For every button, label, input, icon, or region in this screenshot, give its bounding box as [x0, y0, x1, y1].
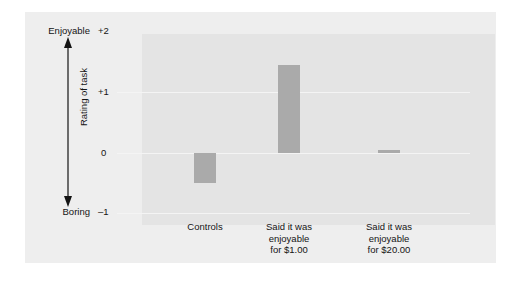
ytick-label-plus-1: +1: [98, 87, 109, 97]
category-label-20-dollar: Said it was enjoyable for $20.00: [349, 221, 429, 256]
plot-area: [142, 34, 495, 225]
gridline-zero: [117, 153, 470, 154]
ytick-label-minus-1: –1: [98, 207, 109, 217]
bar-said-enjoyable-1-dollar: [278, 65, 300, 153]
gridline-minus-1: [117, 213, 470, 214]
bar-controls: [194, 153, 216, 183]
axis-high-label: Enjoyable: [0, 26, 90, 36]
bar-said-enjoyable-20-dollar: [378, 150, 400, 153]
axis-title: Rating of task: [77, 57, 91, 137]
ytick-label-zero: 0: [101, 148, 106, 158]
chart-figure: +2 +1 0 –1 Enjoyable Boring Rating of ta…: [0, 0, 511, 281]
axis-low-label: Boring: [0, 207, 90, 217]
category-label-1-dollar: Said it was enjoyable for $1.00: [249, 221, 329, 256]
category-label-controls: Controls: [165, 221, 245, 233]
ytick-label-plus-2: +2: [98, 26, 109, 36]
axis-direction-arrow-icon: [62, 36, 74, 208]
